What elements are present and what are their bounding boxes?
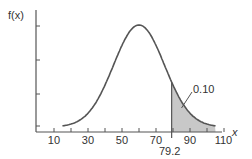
normal-distribution-chart: f(x) x 0.10 79.2 1030507090110 bbox=[0, 0, 252, 159]
x-tick-label: 110 bbox=[215, 135, 233, 146]
x-axis-label: x bbox=[232, 127, 238, 138]
x-tick-label: 70 bbox=[150, 135, 162, 146]
x-tick-label: 30 bbox=[82, 135, 94, 146]
tail-area-annotation: 0.10 bbox=[193, 84, 214, 95]
x-tick-label: 10 bbox=[48, 135, 60, 146]
annotation-pointer-line bbox=[182, 92, 193, 108]
density-curve bbox=[63, 25, 216, 126]
x-tick-label: 90 bbox=[184, 135, 196, 146]
cutoff-value-label: 79.2 bbox=[159, 146, 180, 157]
y-axis-label: f(x) bbox=[8, 10, 24, 21]
x-tick-label: 50 bbox=[116, 135, 128, 146]
